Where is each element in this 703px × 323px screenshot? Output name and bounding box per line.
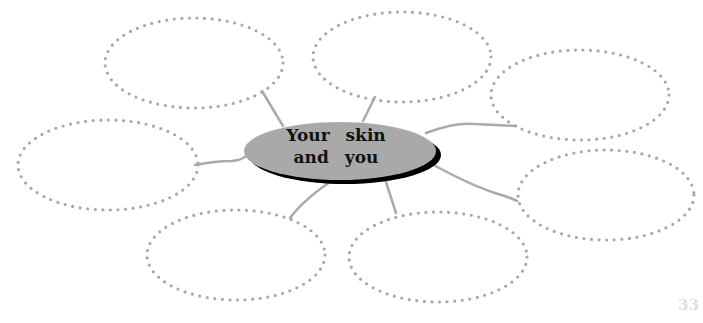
connector-right-upper <box>426 124 516 133</box>
connector-left <box>195 155 247 165</box>
bubble-bottom-center[interactable] <box>349 212 527 302</box>
bubble-top-center[interactable] <box>313 12 491 102</box>
bubble-right-lower[interactable] <box>518 150 694 240</box>
center-topic-line1: Your skin <box>246 124 426 146</box>
bubble-left[interactable] <box>18 120 198 210</box>
connector-right-lower <box>430 163 517 201</box>
connector-top-left <box>262 91 283 126</box>
center-topic-line2: and you <box>246 146 426 168</box>
page-number: 33 <box>678 296 699 314</box>
center-topic: Your skin and you <box>246 124 426 184</box>
connector-bottom-left <box>290 178 336 218</box>
bubble-top-left[interactable] <box>105 18 283 108</box>
bubble-bottom-left[interactable] <box>147 210 325 300</box>
bubble-right-upper[interactable] <box>491 50 669 140</box>
